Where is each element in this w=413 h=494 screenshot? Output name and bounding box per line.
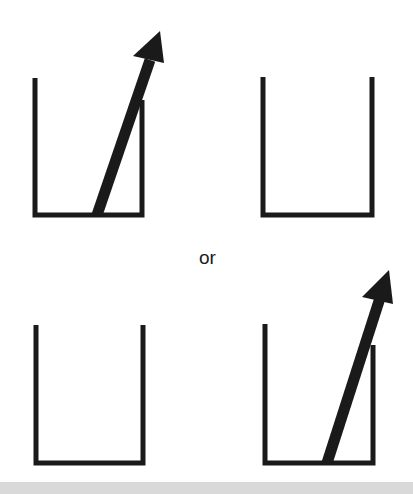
conjunction-label: or bbox=[199, 247, 216, 269]
cup-bottom-left bbox=[36, 325, 143, 463]
cup-bottom-right bbox=[265, 324, 373, 463]
arrow-icon-top-left bbox=[97, 31, 164, 215]
bottom-strip bbox=[0, 482, 413, 494]
arrow-icon-bottom-right bbox=[327, 270, 393, 463]
cup-top-right bbox=[263, 77, 372, 215]
